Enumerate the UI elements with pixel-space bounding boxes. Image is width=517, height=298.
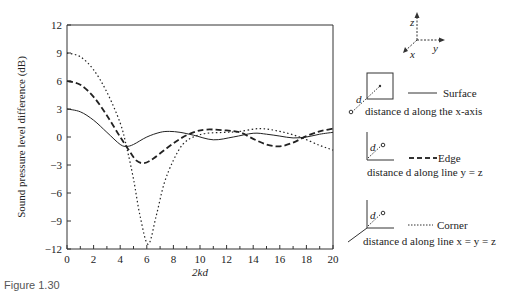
legend-desc-surface: distance d along the x-axis	[365, 105, 482, 117]
x-axis-ticks: 02468101214161820	[64, 245, 339, 265]
legend-corner: d Corner distance d along line x = y = z	[348, 200, 496, 247]
y-tick-label: 0	[57, 131, 63, 143]
legend-surface: d Surface distance d along the x-axis	[349, 73, 482, 117]
d-label: d	[370, 209, 376, 221]
y-axis-coord-label: y	[432, 42, 438, 54]
series-edge	[67, 81, 333, 163]
x-tick-label: 0	[64, 253, 70, 265]
x-tick-label: 10	[195, 253, 207, 265]
y-tick-label: −9	[50, 215, 62, 227]
figure-caption: Figure 1.30	[4, 279, 60, 291]
d-label: d	[370, 141, 376, 153]
legend-edge: d Edge distance d along line y = z	[367, 132, 483, 178]
y-tick-label: 9	[57, 47, 63, 59]
y-tick-label: 6	[57, 75, 63, 87]
y-tick-label: 3	[57, 103, 63, 115]
x-tick-label: 20	[328, 253, 340, 265]
y-axis-label: Sound pressure level difference (dB)	[15, 56, 28, 218]
x-axis-coord-label: x	[409, 48, 415, 60]
legend-label-edge: Edge	[438, 152, 461, 164]
legend-label-surface: Surface	[443, 87, 477, 99]
series-corner	[67, 53, 333, 244]
x-tick-label: 14	[248, 253, 260, 265]
chart: 129630−3−6−9−12 02468101214161820 Sound …	[0, 0, 517, 298]
x-tick-label: 18	[301, 253, 313, 265]
d-label: d	[356, 93, 362, 105]
x-tick-label: 2	[91, 253, 97, 265]
series-group	[67, 53, 333, 244]
legend-desc-edge: distance d along line y = z	[367, 166, 483, 178]
z-axis-label: z	[409, 16, 415, 28]
x-tick-label: 4	[117, 253, 123, 265]
legend-desc-corner: distance d along line x = y = z	[363, 235, 496, 247]
x-tick-label: 8	[171, 253, 177, 265]
legend-label-corner: Corner	[437, 219, 468, 231]
x-tick-label: 6	[144, 253, 150, 265]
x-tick-label: 12	[221, 253, 232, 265]
y-tick-label: −6	[50, 187, 62, 199]
y-tick-label: 12	[51, 19, 62, 31]
x-axis-label: 2kd	[192, 266, 208, 278]
x-tick-label: 16	[274, 253, 286, 265]
y-tick-label: −3	[50, 159, 62, 171]
y-tick-label: −12	[45, 243, 62, 255]
